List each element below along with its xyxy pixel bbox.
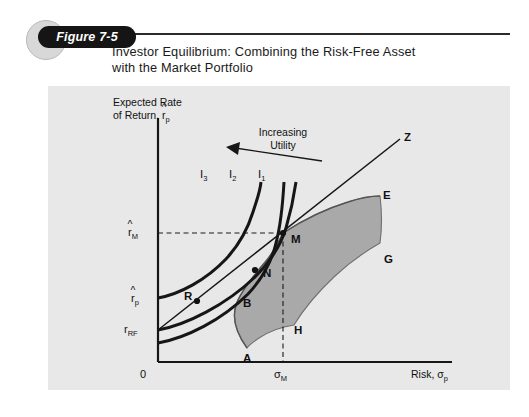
curve-label-i2-sub: 2 xyxy=(232,174,236,183)
point-label-h: H xyxy=(294,324,302,336)
hat-accent-icon: ^ xyxy=(130,286,135,296)
point-label-e: E xyxy=(383,189,391,201)
point-label-a: A xyxy=(243,352,251,364)
point-label-g: G xyxy=(384,253,393,265)
x-axis-label-prefix: Risk, xyxy=(411,368,437,380)
point-label-b: B xyxy=(243,297,251,309)
x-tick-label-sigma-m-sub: M xyxy=(281,374,287,383)
y-tick-label-rm-sub: M xyxy=(132,232,138,241)
x-axis-label-sub: p xyxy=(444,374,448,383)
x-tick-label-sigma-m-symbol: σ xyxy=(274,368,281,380)
y-tick-rm-symbol-wrap: ^r xyxy=(128,226,132,238)
hat-accent-icon: ^ xyxy=(161,102,166,112)
origin-label: 0 xyxy=(140,368,146,380)
indifference-curve-label-i3: I3 xyxy=(200,168,207,183)
indifference-curve-label-i1: I1 xyxy=(258,168,265,183)
x-axis-label: Risk, σp xyxy=(411,368,448,386)
y-axis-label: Expected Rate of Return, ^rp xyxy=(113,96,182,126)
increasing-utility-arrow-head xyxy=(226,142,240,155)
y-axis-label-line-2-prefix: of Return, xyxy=(113,109,162,121)
point-marker-n xyxy=(252,267,258,273)
figure-container: Figure 7-5 Investor Equilibrium: Combini… xyxy=(0,0,529,417)
y-tick-rp-symbol-wrap: ^r xyxy=(131,292,135,304)
curve-label-i3-sub: 3 xyxy=(203,174,207,183)
increasing-utility-annotation: Increasing Utility xyxy=(240,126,326,151)
y-axis-label-return-symbol: ^r xyxy=(162,109,166,122)
y-tick-label-rp-sub: p xyxy=(135,298,139,307)
y-axis-label-line-2-sub: p xyxy=(166,115,170,124)
y-tick-label-rrf: rRF xyxy=(124,323,138,338)
indifference-curve-label-i2: I2 xyxy=(229,168,236,183)
curve-label-i1-sub: 1 xyxy=(261,174,265,183)
point-label-r: R xyxy=(184,290,192,302)
increasing-utility-line-1: Increasing xyxy=(259,126,307,138)
chart-graphics xyxy=(0,0,529,417)
y-tick-label-rp: ^rp xyxy=(131,292,139,307)
hat-accent-icon: ^ xyxy=(127,220,132,230)
y-tick-label-rm: ^rM xyxy=(128,226,138,241)
y-axis-label-line-1: Expected Rate xyxy=(113,96,182,108)
point-label-z: Z xyxy=(404,131,411,143)
increasing-utility-line-2: Utility xyxy=(270,139,296,151)
point-marker-m xyxy=(280,230,286,236)
y-tick-label-rrf-sub: RF xyxy=(128,329,138,338)
point-marker-r xyxy=(194,298,200,304)
indifference-curve-i3 xyxy=(158,182,261,298)
x-tick-label-sigma-m: σM xyxy=(274,368,287,383)
point-label-m: M xyxy=(291,233,301,245)
point-label-n: N xyxy=(263,267,271,279)
